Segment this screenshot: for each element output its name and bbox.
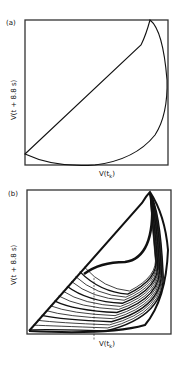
panel-b-curve (80, 193, 156, 294)
panel-b-curves (29, 192, 168, 332)
panel-a: (a) V(t + 8.8 s) V(tk) (6, 19, 168, 179)
panel-b-curve (84, 193, 155, 291)
panel-a-xlabel: V(tk) (99, 170, 115, 179)
panel-b: (b) V(t + 8.8 s) V(tk) (8, 190, 171, 349)
panel-a-ylabel: V(t + 8.8 s) (10, 79, 18, 120)
panel-b-label: (b) (8, 190, 18, 198)
panel-b-inner-lobe (84, 200, 152, 274)
panel-a-label: (a) (6, 19, 16, 27)
figure: (a) V(t + 8.8 s) V(tk) (b) V(t + 8.8 s) … (0, 0, 180, 367)
panel-b-ylabel: V(t + 8.8 s) (10, 244, 18, 285)
panel-b-frame (27, 190, 171, 334)
panel-a-curve (25, 20, 167, 166)
panel-b-xlabel: V(tk) (99, 340, 115, 349)
